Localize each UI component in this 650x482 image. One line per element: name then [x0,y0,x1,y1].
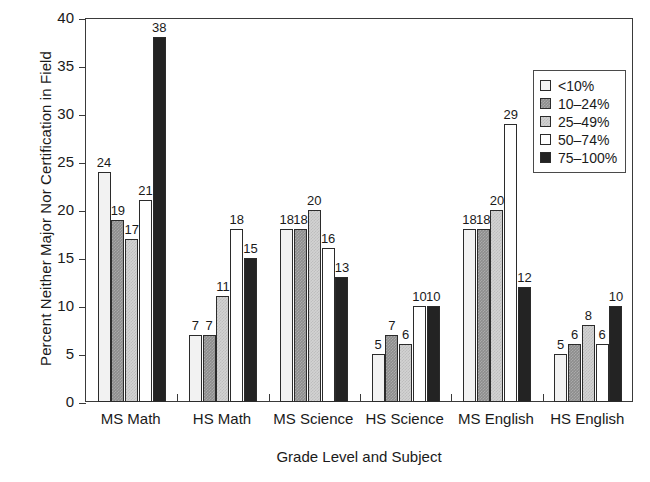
legend-label: 10–24% [558,96,609,112]
bar-value-label: 6 [402,327,409,342]
bar-rect [554,354,567,402]
bar-value-label: 38 [152,20,166,35]
bar-rect [139,200,152,402]
bar-rect [609,306,622,402]
category-label: MS Science [268,410,359,427]
bar-rect [153,37,166,402]
legend-item[interactable]: 50–74% [540,131,617,148]
y-tick-label: 15 [28,249,74,266]
bar[interactable]: 10 [427,18,440,402]
bar-value-label: 6 [598,327,605,342]
bar-rect [582,325,595,402]
bar[interactable]: 20 [490,18,503,402]
bar-value-label: 10 [609,289,623,304]
bar-rect [322,248,335,402]
bar-rect [568,344,581,402]
legend-label: <10% [558,78,594,94]
bar-value-label: 5 [557,337,564,352]
bar[interactable]: 17 [125,18,138,402]
bar-value-label: 8 [585,308,592,323]
bar[interactable]: 29 [504,18,517,402]
bar-value-label: 18 [230,212,244,227]
bar[interactable]: 24 [98,18,111,402]
bar-value-label: 5 [374,337,381,352]
bar-value-label: 13 [335,260,349,275]
legend-swatch-icon [540,98,551,109]
bar-rect [244,258,257,402]
y-tick-label: 40 [28,9,74,26]
bar[interactable]: 18 [294,18,307,402]
bar-value-label: 21 [138,183,152,198]
bar[interactable]: 10 [413,18,426,402]
bar[interactable]: 16 [322,18,335,402]
bar-value-label: 16 [321,231,335,246]
bar[interactable]: 6 [399,18,412,402]
bar-value-label: 11 [216,279,230,294]
bar-value-label: 19 [111,203,125,218]
bar[interactable]: 20 [308,18,321,402]
y-tick-label: 20 [28,201,74,218]
bar-value-label: 12 [517,270,531,285]
bar[interactable]: 7 [189,18,202,402]
y-tick-label: 10 [28,297,74,314]
bar-rect [203,335,216,402]
bar[interactable]: 18 [230,18,243,402]
bar-value-label: 29 [504,107,518,122]
bar-value-label: 18 [293,212,307,227]
bar-rect [216,296,229,402]
bar[interactable]: 7 [385,18,398,402]
category-label: MS English [450,410,541,427]
legend-item[interactable]: 75–100% [540,149,617,166]
bar-rect [490,210,503,402]
bar-rect [504,124,517,402]
bar-rect [98,172,111,402]
bar[interactable]: 38 [153,18,166,402]
category-label: HS Math [176,410,267,427]
bar[interactable]: 21 [139,18,152,402]
legend-swatch-icon [540,152,551,163]
bar-value-label: 7 [388,318,395,333]
legend-item[interactable]: 25–49% [540,113,617,130]
bar-value-label: 18 [476,212,490,227]
y-tick-label: 5 [28,345,74,362]
bar-rect [427,306,440,402]
bar-value-label: 10 [412,289,426,304]
bar[interactable]: 11 [216,18,229,402]
bar[interactable]: 12 [518,18,531,402]
bar-rect [463,229,476,402]
y-tick-line [79,403,86,404]
bar[interactable]: 18 [463,18,476,402]
legend-swatch-icon [540,80,551,91]
bar-rect [335,277,348,402]
category-label: MS Math [85,410,176,427]
bar-group: 5761010 [359,18,450,402]
legend: <10%10–24%25–49%50–74%75–100% [533,70,626,173]
bar-value-label: 18 [279,212,293,227]
bar-rect [372,354,385,402]
bar-value-label: 7 [192,318,199,333]
legend-label: 50–74% [558,132,609,148]
bar-value-label: 7 [206,318,213,333]
bar[interactable]: 18 [477,18,490,402]
bar-rect [413,306,426,402]
bar[interactable]: 15 [244,18,257,402]
bar-value-label: 18 [462,212,476,227]
bar-value-label: 20 [490,193,504,208]
category-label: HS Science [359,410,450,427]
legend-item[interactable]: 10–24% [540,95,617,112]
legend-item[interactable]: <10% [540,77,617,94]
bar-rect [308,210,321,402]
bar-rect [294,229,307,402]
bar[interactable]: 7 [203,18,216,402]
bar[interactable]: 13 [335,18,348,402]
category-label: HS English [542,410,633,427]
bar-rect [596,344,609,402]
bar-rect [111,220,124,402]
bar-value-label: 17 [124,222,138,237]
legend-swatch-icon [540,134,551,145]
bar[interactable]: 5 [372,18,385,402]
y-tick-label: 35 [28,57,74,74]
bar[interactable]: 19 [111,18,124,402]
legend-swatch-icon [540,116,551,127]
bar[interactable]: 18 [280,18,293,402]
